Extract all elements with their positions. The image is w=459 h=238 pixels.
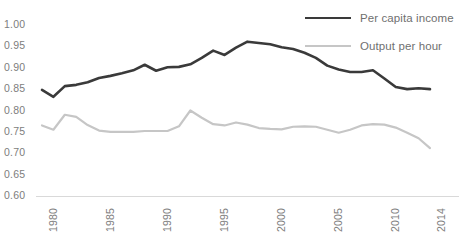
y-tick-label: 0.80 [4, 104, 25, 116]
y-tick-label: 0.85 [4, 82, 25, 94]
series-group [42, 42, 430, 148]
y-tick-label: 0.60 [4, 189, 25, 201]
legend-line-swatch-dark [305, 17, 351, 19]
y-tick-label: 0.70 [4, 146, 25, 158]
x-tick-label: 2000 [275, 208, 287, 232]
x-tick-label: 2010 [389, 208, 401, 232]
series-line-output-per-hour [42, 111, 430, 149]
line-chart: 0.600.650.700.750.800.850.900.951.00 198… [0, 0, 459, 238]
x-tick-label: 1985 [104, 208, 116, 232]
x-tick-label: 1980 [47, 208, 59, 232]
legend-item-output-per-hour[interactable]: Output per hour [305, 40, 442, 52]
legend-label: Per capita income [360, 12, 454, 24]
x-tick-label: 2005 [332, 208, 344, 232]
x-tick-label: 1990 [161, 208, 173, 232]
legend-line-swatch-light [305, 45, 351, 47]
legend-label: Output per hour [360, 40, 442, 52]
x-tick-label: 2014 [435, 208, 447, 232]
y-tick-label: 0.90 [4, 61, 25, 73]
plot-area [0, 0, 459, 238]
y-tick-label: 1.00 [4, 18, 25, 30]
y-tick-label: 0.75 [4, 125, 25, 137]
y-tick-label: 0.95 [4, 39, 25, 51]
y-tick-label: 0.65 [4, 168, 25, 180]
legend-item-per-capita-income[interactable]: Per capita income [305, 12, 454, 24]
x-tick-label: 1995 [218, 208, 230, 232]
